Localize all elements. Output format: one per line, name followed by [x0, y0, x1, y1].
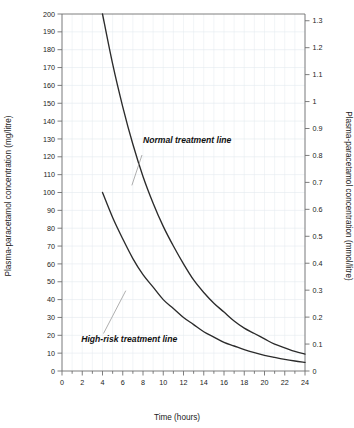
x-tick-label: 24	[301, 378, 309, 387]
y-left-tick-label: 90	[47, 206, 55, 215]
y-left-tick-label: 40	[47, 295, 55, 304]
y-left-tick-label: 200	[43, 10, 55, 19]
y-right-tick-label: 0.4	[313, 259, 323, 268]
y-right-tick-label: 0.2	[313, 313, 323, 322]
high-risk-treatment-line-label: High-risk treatment line	[81, 334, 177, 344]
x-tick-label: 8	[141, 378, 145, 387]
y-right-tick-label: 1	[313, 97, 317, 106]
y-left-tick-label: 150	[43, 99, 55, 108]
y-right-tick-label: 0.1	[313, 340, 323, 349]
y-right-tick-label: 1.1	[313, 70, 323, 79]
y-left-tick-label: 70	[47, 242, 55, 251]
chart-canvas: 024681012141618202224 010203040506070809…	[0, 0, 354, 428]
y-left-tick-label: 20	[47, 331, 55, 340]
y-right-tick-label: 0.9	[313, 124, 323, 133]
y-right-tick-label: 0.6	[313, 205, 323, 214]
y-left-tick-label: 170	[43, 63, 55, 72]
x-tick-label: 12	[180, 378, 188, 387]
x-tick-label: 20	[261, 378, 269, 387]
y-right-tick-label: 0.7	[313, 178, 323, 187]
y-right-tick-label: 1.2	[313, 43, 323, 52]
y-left-tick-label: 30	[47, 313, 55, 322]
y-left-tick-label: 140	[43, 117, 55, 126]
paracetamol-nomogram-chart: 024681012141618202224 010203040506070809…	[0, 0, 354, 428]
normal-treatment-line-label: Normal treatment line	[143, 135, 232, 145]
y-left-tick-label: 50	[47, 277, 55, 286]
y-left-tick-label: 190	[43, 27, 55, 36]
x-tick-label: 22	[281, 378, 289, 387]
x-tick-label: 18	[240, 378, 248, 387]
y-right-tick-label: 0.8	[313, 151, 323, 160]
y-right-tick-label: 1.3	[313, 16, 323, 25]
y-left-tick-label: 60	[47, 260, 55, 269]
y-right-tick-label: 0	[313, 367, 317, 376]
x-tick-label: 16	[220, 378, 228, 387]
y-left-tick-label: 0	[51, 367, 55, 376]
x-tick-label: 14	[200, 378, 208, 387]
y-left-tick-label: 160	[43, 81, 55, 90]
x-tick-label: 2	[80, 378, 84, 387]
y-right-tick-label: 0.3	[313, 286, 323, 295]
y-axis-right-title: Plasma-paracetamol concentration (mmol/l…	[344, 111, 353, 281]
y-left-tick-label: 110	[44, 170, 55, 179]
x-tick-label: 4	[101, 378, 105, 387]
y-axis-left-title: Plasma-paracetamol concentration (mg/lit…	[4, 115, 13, 276]
y-left-tick-label: 130	[43, 135, 55, 144]
y-right-tick-label: 0.5	[313, 232, 323, 241]
x-tick-label: 0	[60, 378, 64, 387]
x-tick-label: 10	[159, 378, 167, 387]
y-left-tick-label: 100	[43, 188, 55, 197]
y-left-tick-label: 10	[47, 349, 55, 358]
x-tick-label: 6	[121, 378, 125, 387]
y-left-tick-label: 180	[43, 45, 55, 54]
y-left-tick-label: 120	[43, 152, 55, 161]
x-axis-title: Time (hours)	[154, 413, 200, 422]
y-left-tick-label: 80	[47, 224, 55, 233]
